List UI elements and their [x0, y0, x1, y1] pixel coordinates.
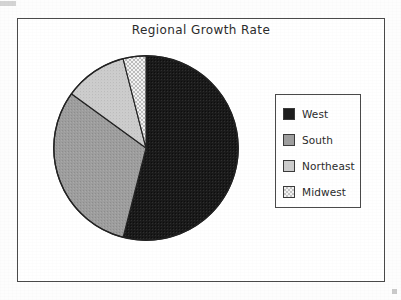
scan-artifact-bottom-right: [392, 289, 397, 294]
scan-artifact-top-left: [0, 1, 16, 6]
legend-label-northeast: Northeast: [302, 160, 355, 172]
chart-title: Regional Growth Rate: [17, 23, 385, 37]
pie-chart-svg: [53, 55, 239, 241]
pie-slice-group: [54, 56, 238, 240]
legend-item-west[interactable]: West: [276, 101, 360, 127]
legend-label-west: West: [302, 108, 328, 120]
legend-swatch-midwest: [283, 186, 295, 198]
legend-label-south: South: [302, 134, 333, 146]
legend-item-south[interactable]: South: [276, 127, 360, 153]
legend-label-midwest: Midwest: [302, 186, 346, 198]
legend-swatch-northeast: [283, 160, 295, 172]
pie-chart: [53, 55, 239, 241]
legend-item-midwest[interactable]: Midwest: [276, 179, 360, 205]
chart-legend: West South Northeast Midwest: [275, 94, 361, 208]
legend-swatch-south: [283, 134, 295, 146]
legend-swatch-west: [283, 108, 295, 120]
legend-item-northeast[interactable]: Northeast: [276, 153, 360, 179]
chart-screenshot: Regional Growth Rate: [0, 0, 401, 300]
